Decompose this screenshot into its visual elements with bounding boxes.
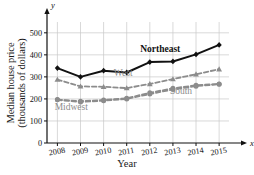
svg-text:2013: 2013: [164, 146, 182, 158]
svg-text:South: South: [170, 86, 192, 96]
svg-text:2015: 2015: [210, 146, 228, 158]
tick-label-layer: 0100200300400500200820092010201120122013…: [30, 29, 228, 158]
svg-text:Northeast: Northeast: [140, 44, 181, 54]
svg-text:Midwest: Midwest: [55, 102, 89, 112]
y-axis-title-line-2: (thousands of dollars): [16, 38, 27, 127]
svg-text:2014: 2014: [187, 146, 205, 158]
y-axis-title: Median house price (thousands of dollars…: [0, 18, 33, 148]
line-chart-plot: yx 0100200300400500200820092010201120122…: [0, 0, 254, 175]
svg-text:West: West: [114, 68, 133, 78]
svg-text:2011: 2011: [118, 146, 135, 158]
svg-text:2010: 2010: [94, 146, 112, 158]
svg-text:2008: 2008: [48, 146, 66, 158]
series-layer: [54, 42, 222, 104]
svg-text:2009: 2009: [71, 146, 89, 158]
svg-text:y: y: [50, 0, 55, 10]
svg-text:x: x: [249, 138, 254, 148]
svg-text:2012: 2012: [141, 146, 159, 158]
svg-text:0: 0: [38, 139, 42, 148]
x-axis-title: Year: [0, 158, 254, 169]
y-axis-title-line-1: Median house price: [5, 43, 16, 124]
series-label-layer: NortheastWestSouthMidwest: [55, 44, 193, 113]
chart-figure: yx 0100200300400500200820092010201120122…: [0, 0, 254, 175]
grid-layer: [47, 22, 229, 143]
